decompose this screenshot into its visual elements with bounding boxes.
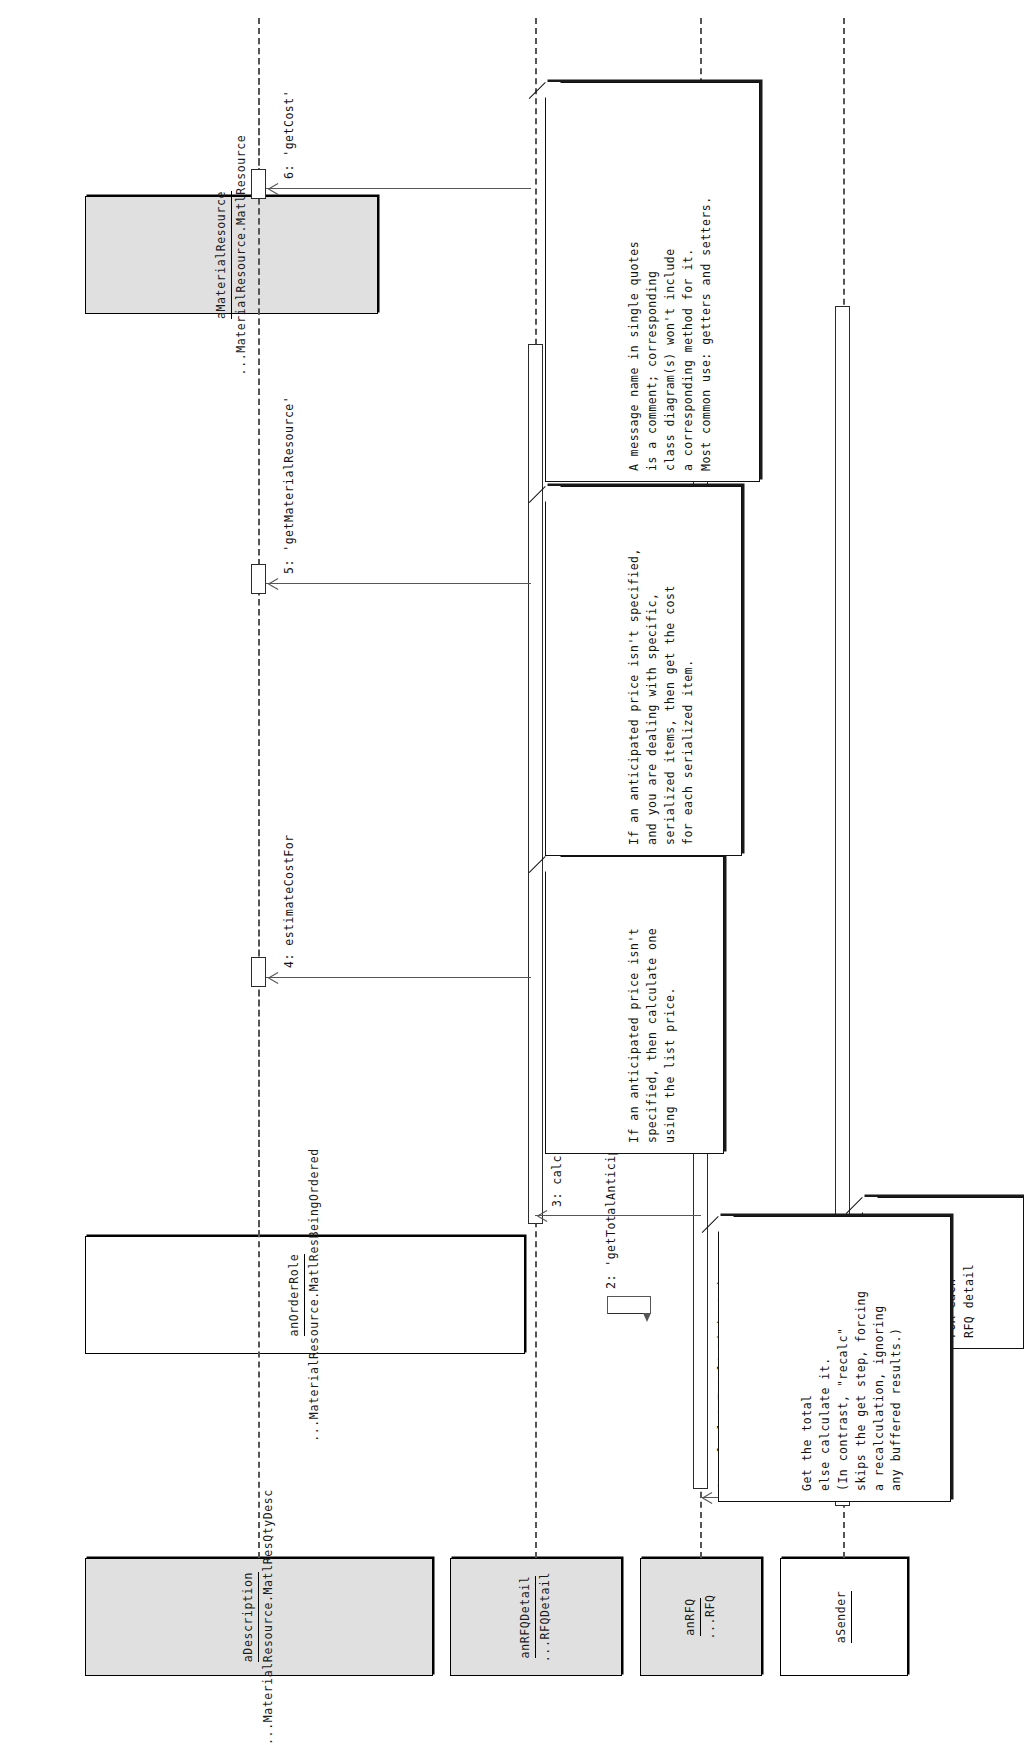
message-2-selfcall [607,1296,651,1314]
note-fold-icon [545,486,561,502]
note-serialized-text: If an anticipated price isn't specified,… [626,497,697,845]
message-2-arrowhead [643,1313,651,1322]
message-4-arrowhead-b [268,978,278,984]
message-6-line [266,188,531,189]
message-3-line [535,1215,701,1216]
lifeline-class-orderrole: ...MaterialResource.MatlResBeingOrdered [305,1148,323,1441]
lifeline-class-rfq: ...RFQ [701,1594,719,1639]
note-fold-icon [545,82,561,98]
message-4-line [266,977,531,978]
lifeline-head-orderrole[interactable]: anOrderRole ...MaterialResource.MatlResB… [85,1236,525,1354]
lifeline-head-sender[interactable]: aSender [780,1558,908,1676]
note-single-quotes-text: A message name in single quotes is a com… [626,93,715,471]
message-label-5: 5: 'getMaterialResource' [282,396,296,574]
message-5-line [266,583,531,584]
message-label-6: 6: 'getCost' [282,90,296,179]
lifeline-head-materialres[interactable]: aMaterialResource ...MaterialResource.Ma… [85,196,378,314]
lifeline-orderrole [258,18,260,1236]
lifeline-head-rfqdetail[interactable]: anRFQDetail ...RFQDetail [450,1558,622,1676]
note-fold-line [529,82,546,99]
lifeline-name-rfq: anRFQ [683,1598,701,1636]
lifeline-head-rfq[interactable]: anRFQ ...RFQ [640,1558,762,1676]
note-serialized[interactable]: If an anticipated price isn't specified,… [545,486,742,856]
lifeline-name-description: aDescription [241,1572,259,1662]
note-fold-icon [718,1216,734,1232]
message-label-4: 4: estimateCostFor [282,834,296,968]
note-anticipated-price-text: If an anticipated price isn't specified,… [626,867,679,1143]
note-single-quotes[interactable]: A message name in single quotes is a com… [545,82,760,482]
note-fold-icon [545,856,561,872]
activation-orderrole[interactable] [251,564,266,594]
lifeline-name-rfqdetail: anRFQDetail [518,1576,536,1659]
message-5-arrowhead-b [268,584,278,590]
lifeline-class-rfqdetail: ...RFQDetail [536,1572,554,1662]
lifeline-head-description[interactable]: aDescription ...MaterialResource.MatlRes… [85,1558,433,1676]
lifeline-class-materialres: ...MaterialResource.MatlResource [232,135,250,376]
note-get-total[interactable]: Get the total else calculate it. (In con… [718,1216,951,1502]
note-fold-icon [862,1197,878,1213]
lifeline-name-materialres: aMaterialResource [214,191,232,319]
lifeline-name-sender: aSender [834,1591,852,1644]
activation-rfqdetail[interactable] [528,344,543,1224]
lifeline-name-orderrole: anOrderRole [287,1254,305,1337]
lifeline-class-description: ...MaterialResource.MatlResQtyDesc [259,1489,277,1745]
message-6-arrowhead-b [268,189,278,195]
activation-materialres[interactable] [251,169,266,199]
note-anticipated-price[interactable]: If an anticipated price isn't specified,… [545,856,724,1154]
activation-description[interactable] [251,957,266,987]
note-get-total-text: Get the total else calculate it. (In con… [799,1227,906,1491]
message-1-arrowhead-b [702,1498,712,1504]
